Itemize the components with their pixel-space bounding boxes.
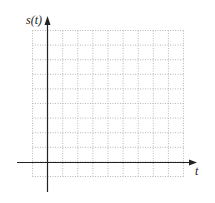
graph-paper [0,0,215,203]
y-axis-label: s(t) [26,14,42,26]
x-axis-label: t [195,165,198,177]
y-axis-arrow-icon [45,16,51,25]
grid [33,31,184,177]
